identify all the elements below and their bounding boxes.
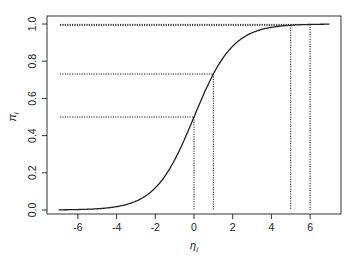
y-tick-label: 1.0 xyxy=(26,17,38,32)
y-tick-label: 0.4 xyxy=(26,128,38,143)
y-tick-label: 0.0 xyxy=(26,203,38,218)
x-tick-label: 0 xyxy=(191,221,197,233)
x-tick-label: 6 xyxy=(307,221,313,233)
reference-lines xyxy=(60,24,310,210)
x-tick-label: 2 xyxy=(230,221,236,233)
y-axis-title: πi xyxy=(6,112,21,121)
x-tick-label: 4 xyxy=(268,221,274,233)
y-axis: 0.00.20.40.60.81.0 xyxy=(26,17,47,218)
logistic-chart: -6-4-20246 0.00.20.40.60.81.0 ηi πi xyxy=(0,0,356,259)
x-tick-label: -4 xyxy=(112,221,121,233)
y-tick-label: 0.6 xyxy=(26,91,38,106)
x-axis: -6-4-20246 xyxy=(73,214,313,233)
x-tick-label: -2 xyxy=(151,221,160,233)
y-tick-label: 0.2 xyxy=(26,165,38,180)
x-axis-title: ηi xyxy=(190,239,198,254)
x-tick-label: -6 xyxy=(73,221,82,233)
y-tick-label: 0.8 xyxy=(26,54,38,69)
